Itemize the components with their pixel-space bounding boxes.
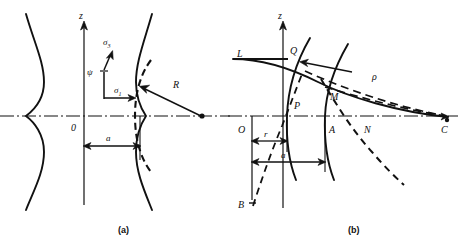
panel-b-point-Q-label: Q bbox=[290, 45, 298, 56]
panel-a-radius-label: R bbox=[172, 79, 179, 90]
panel-a-neck-radius-label: a bbox=[106, 133, 111, 143]
panel-b-origin-label: O bbox=[238, 124, 245, 135]
panel-b-curve-LC bbox=[233, 59, 448, 117]
panel-a-radius-arrowhead bbox=[139, 85, 149, 93]
panel-a: z 0 σ3 σ1 ψ R a (a) bbox=[0, 10, 230, 235]
panel-a-z-label: z bbox=[78, 10, 83, 21]
panel-b-z-label: z bbox=[277, 10, 282, 21]
panel-b-point-M-label: M bbox=[329, 91, 339, 102]
panel-a-sigma-1-label: σ1 bbox=[114, 85, 121, 97]
panel-b-arrow-to-Q-line bbox=[306, 63, 352, 72]
panel-b-curve-MA bbox=[325, 44, 348, 180]
panel-b-point-A-label: A bbox=[328, 124, 336, 135]
panel-b-radius-a-label: a bbox=[281, 150, 286, 160]
panel-a-psi-label: ψ bbox=[87, 67, 93, 77]
panel-b-dashed-BQ bbox=[253, 74, 302, 206]
panel-b-point-P-label: P bbox=[293, 100, 300, 111]
panel-b-caption: (b) bbox=[348, 225, 360, 235]
figure-svg: z 0 σ3 σ1 ψ R a (a) bbox=[0, 0, 461, 239]
panel-b-dashed-MC bbox=[325, 87, 446, 116]
panel-b-rho-label: ρ bbox=[371, 71, 377, 82]
panel-a-sigma-3-label: σ3 bbox=[103, 37, 110, 49]
panel-b-radius-r-label: r bbox=[264, 129, 268, 139]
panel-b-point-N-label: N bbox=[363, 124, 372, 135]
panel-b: z O L Q P M A N C B ρ r a (b) bbox=[228, 10, 458, 235]
panel-b-point-C-label: C bbox=[441, 124, 448, 135]
panel-a-radius-line bbox=[145, 89, 201, 116]
panel-b-point-B-label: B bbox=[238, 199, 244, 210]
panel-b-point-L-label: L bbox=[236, 48, 243, 59]
panel-a-curvature-center-dot bbox=[199, 113, 204, 118]
panel-a-neck-profile-left bbox=[26, 14, 44, 210]
panel-b-point-C-dot bbox=[445, 118, 449, 122]
figure-canvas: z 0 σ3 σ1 ψ R a (a) bbox=[0, 0, 461, 239]
panel-a-neck-profile-right bbox=[136, 14, 152, 210]
panel-a-caption: (a) bbox=[118, 225, 129, 235]
panel-a-origin-label: 0 bbox=[71, 122, 76, 133]
